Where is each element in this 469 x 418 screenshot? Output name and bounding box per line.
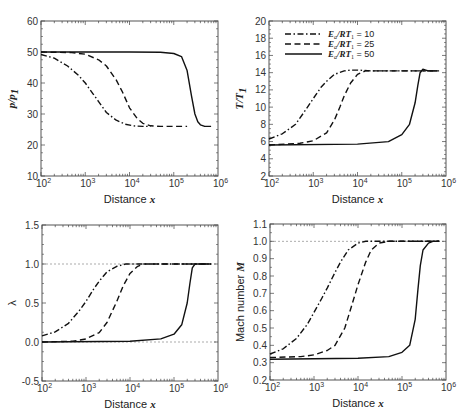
y-tick-label: 8: [260, 119, 266, 130]
y-tick-label: -0.5: [22, 376, 40, 387]
y-tick-label: 4: [260, 153, 266, 164]
reaction-progress-chart: 102103104105106-0.50.00.51.01.5Distance …: [6, 220, 228, 411]
x-tick-label: 102: [264, 177, 279, 189]
y-tick-label: 0.0: [25, 337, 39, 348]
x-tick-label: 104: [125, 382, 140, 394]
y-tick-label: 6: [260, 136, 266, 147]
y-tick-label: 16: [255, 50, 267, 61]
y-tick-label: 1.5: [25, 220, 39, 231]
chart-legend: Ea/RT1 = 10Ea/RT1 = 25Ea/RT1 = 50: [285, 29, 374, 60]
x-tick-label: 106: [213, 382, 228, 394]
x-axis-title: Distance x: [332, 397, 384, 409]
y-axis-title: p/p1: [5, 89, 20, 110]
x-tick-label: 103: [80, 177, 95, 189]
y-tick-label: 18: [255, 33, 267, 44]
x-tick-label: 102: [37, 382, 52, 394]
y-tick-label: 20: [27, 140, 39, 151]
x-tick-label: 106: [213, 177, 228, 189]
plot-frame: [42, 225, 218, 381]
mach-number-chart: 1021031041051060.20.30.40.50.60.70.80.91…: [234, 219, 456, 410]
x-axis-title: Distance x: [104, 398, 156, 410]
y-tick-label: 14: [255, 67, 267, 78]
x-tick-label: 105: [397, 381, 412, 393]
y-tick-label: 0.6: [253, 305, 267, 316]
x-axis-title: Distance x: [104, 193, 156, 205]
y-tick-label: 10: [27, 171, 39, 182]
y-tick-label: 0.2: [253, 375, 267, 386]
plot-frame: [270, 224, 446, 380]
y-tick-label: 0.9: [253, 253, 267, 264]
series-line-solid: [42, 264, 211, 342]
series-line-dashed: [41, 52, 187, 126]
y-tick-label: 30: [27, 109, 39, 120]
x-tick-label: 104: [353, 381, 368, 393]
y-tick-label: 2: [260, 171, 266, 182]
x-tick-label: 103: [308, 177, 323, 189]
y-tick-label: 0.4: [253, 340, 267, 351]
y-tick-label: 0.5: [253, 323, 267, 334]
y-tick-label: 1.0: [25, 259, 39, 270]
y-tick-label: 0.8: [253, 271, 267, 282]
y-tick-label: 1.0: [253, 236, 267, 247]
x-tick-label: 102: [265, 381, 280, 393]
figure-canvas: 102103104105106102030405060Distance xp/p…: [0, 0, 469, 418]
x-tick-label: 104: [353, 177, 368, 189]
y-tick-label: 0.3: [253, 357, 267, 368]
x-tick-label: 104: [125, 177, 140, 189]
x-axis-title: Distance x: [332, 193, 384, 205]
y-axis-title: λ: [6, 300, 18, 306]
y-tick-label: 40: [27, 78, 39, 89]
series-line-solid: [41, 52, 211, 126]
x-tick-label: 102: [36, 177, 51, 189]
series-line-dashdot: [41, 55, 151, 127]
legend-label: Ea/RT1 = 50: [327, 49, 374, 60]
series-line-dashdot: [42, 264, 211, 336]
x-tick-label: 103: [309, 381, 324, 393]
pressure-ratio-chart: 102103104105106102030405060Distance xp/p…: [5, 16, 228, 206]
y-tick-label: 12: [255, 84, 267, 95]
series-line-dashed: [42, 264, 211, 342]
y-tick-label: 0.7: [253, 288, 267, 299]
series-line-solid: [270, 241, 439, 359]
x-tick-label: 106: [441, 381, 456, 393]
x-tick-label: 103: [81, 382, 96, 394]
series-line-dashdot: [269, 70, 439, 139]
y-tick-label: 50: [27, 47, 39, 58]
x-tick-label: 105: [397, 177, 412, 189]
x-tick-label: 105: [169, 177, 184, 189]
y-tick-label: 20: [255, 16, 267, 27]
x-tick-label: 106: [441, 177, 456, 189]
y-tick-label: 0.5: [25, 298, 39, 309]
y-tick-label: 60: [27, 16, 39, 27]
y-tick-label: 10: [255, 102, 267, 113]
series-line-solid: [269, 69, 439, 145]
y-axis-title: T/T1: [233, 88, 248, 110]
x-tick-label: 105: [169, 382, 184, 394]
y-axis-title: Mach number M: [234, 261, 246, 342]
y-tick-label: 1.1: [253, 219, 267, 230]
